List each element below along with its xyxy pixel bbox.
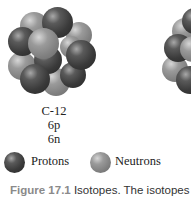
caption-text: Isotopes. The isotopes <box>74 184 190 196</box>
neutron-legend-icon <box>90 152 111 173</box>
protons-legend-label: Protons <box>31 154 69 169</box>
neutron-count-label: 6n <box>34 132 74 146</box>
figure-caption: Figure 17.1 Isotopes. The isotopes <box>10 184 189 196</box>
proton-legend-icon <box>4 152 25 173</box>
neutron-sphere <box>28 28 59 59</box>
proton-sphere <box>176 66 191 94</box>
proton-sphere <box>20 64 50 94</box>
proton-sphere <box>66 40 96 70</box>
carbon-12-nucleus <box>0 0 100 100</box>
legend: Protons Neutrons <box>0 150 191 174</box>
proton-count-label: 6p <box>34 118 74 132</box>
isotope-name-label: C-12 <box>34 104 74 118</box>
second-isotope-nucleus <box>160 0 191 100</box>
figure-number: Figure 17.1 <box>10 184 71 196</box>
neutrons-legend-label: Neutrons <box>115 154 161 169</box>
